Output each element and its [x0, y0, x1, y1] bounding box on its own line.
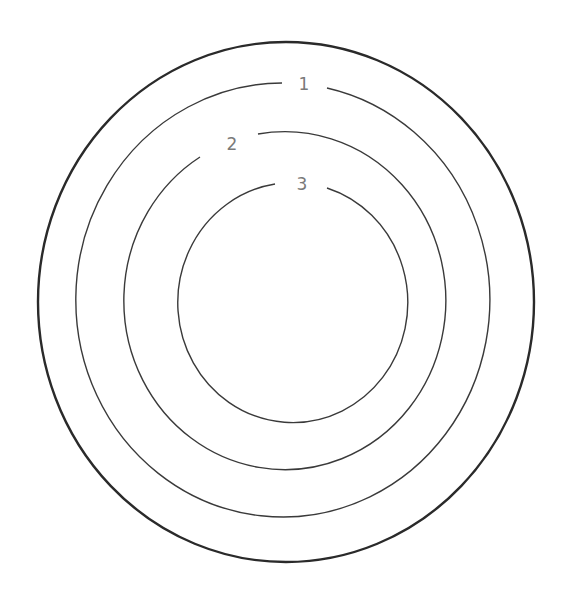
ring-3	[178, 184, 408, 423]
outer-boundary-circle	[38, 42, 534, 562]
ring-1-label: 1	[299, 76, 310, 93]
ring-1	[76, 83, 490, 517]
ring-2-label: 2	[227, 136, 238, 153]
concentric-rings-diagram	[0, 0, 565, 593]
ring-2	[124, 132, 446, 470]
ring-3-label: 3	[297, 176, 308, 193]
